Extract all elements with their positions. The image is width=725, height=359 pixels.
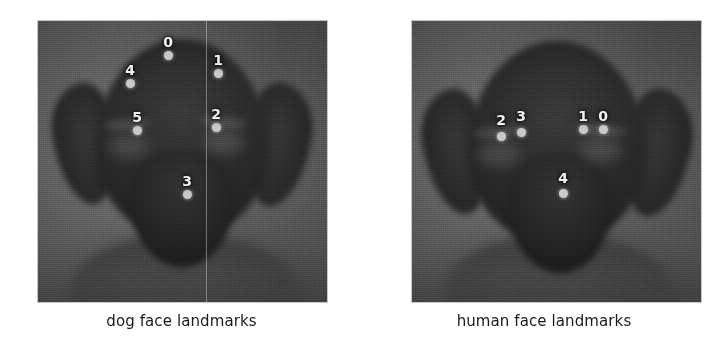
human-landmark-label-0: 0	[598, 109, 608, 123]
dog-left-eye-highlight	[108, 133, 148, 159]
dog-landmark-label-0: 0	[163, 35, 173, 49]
dog-landmark-point-1	[214, 69, 223, 78]
human-landmark-label-3: 3	[516, 109, 526, 123]
dog-landmark-point-5	[133, 126, 142, 135]
dog-right-eye-highlight	[580, 137, 622, 163]
dog-landmark-point-4	[126, 79, 135, 88]
dog-landmark-label-1: 1	[213, 53, 223, 67]
dog-landmark-label-3: 3	[182, 174, 192, 188]
dog-left-eye-highlight	[478, 141, 520, 167]
dog-landmark-point-2	[212, 123, 221, 132]
human-landmark-label-1: 1	[578, 109, 588, 123]
human-landmark-point-4	[559, 189, 568, 198]
dog-landmark-label-2: 2	[211, 107, 221, 121]
human-face-caption: human face landmarks	[363, 312, 725, 330]
human-landmark-label-2: 2	[496, 113, 506, 127]
human-landmark-point-2	[497, 132, 506, 141]
dog-right-eye-highlight	[204, 129, 244, 155]
dog-landmark-point-0	[164, 51, 173, 60]
human-landmark-point-1	[579, 125, 588, 134]
human-landmark-point-0	[599, 125, 608, 134]
dog-symmetry-axis	[206, 21, 207, 302]
human-landmark-point-3	[517, 128, 526, 137]
dog-landmark-point-3	[183, 190, 192, 199]
dog-landmark-label-4: 4	[125, 63, 135, 77]
dog-face-caption: dog face landmarks	[0, 312, 363, 330]
human-face-photo: 0 1 2 3 4	[412, 21, 701, 302]
dog-face-photo: 0 1 2 3 4 5	[38, 21, 327, 302]
dog-landmark-label-5: 5	[132, 110, 142, 124]
human-landmark-label-4: 4	[558, 171, 568, 185]
face-landmarks-figure: 0 1 2 3 4 5 dog face landmarks	[0, 0, 725, 359]
